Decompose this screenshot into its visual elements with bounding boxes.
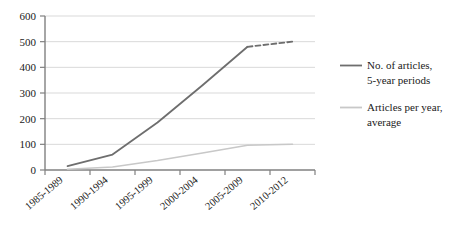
y-tick-label: 300 [20, 87, 37, 99]
y-tick-label: 500 [20, 36, 37, 48]
y-tick-label: 0 [31, 164, 37, 176]
legend-label-no-of-articles-line1: No. of articles, [367, 59, 433, 71]
legend-label-articles-per-year-line1: Articles per year, [367, 101, 443, 113]
legend-label-articles-per-year-line2: average [367, 116, 401, 128]
chart-figure: 0100200300400500600 1985-19891990-199419… [0, 0, 472, 238]
y-tick-label: 200 [20, 113, 37, 125]
y-tick-label: 100 [20, 138, 37, 150]
line-chart: 0100200300400500600 1985-19891990-199419… [0, 0, 472, 238]
y-tick-label: 600 [20, 10, 37, 22]
y-tick-label: 400 [20, 61, 37, 73]
legend-label-no-of-articles-line2: 5-year periods [367, 74, 430, 86]
